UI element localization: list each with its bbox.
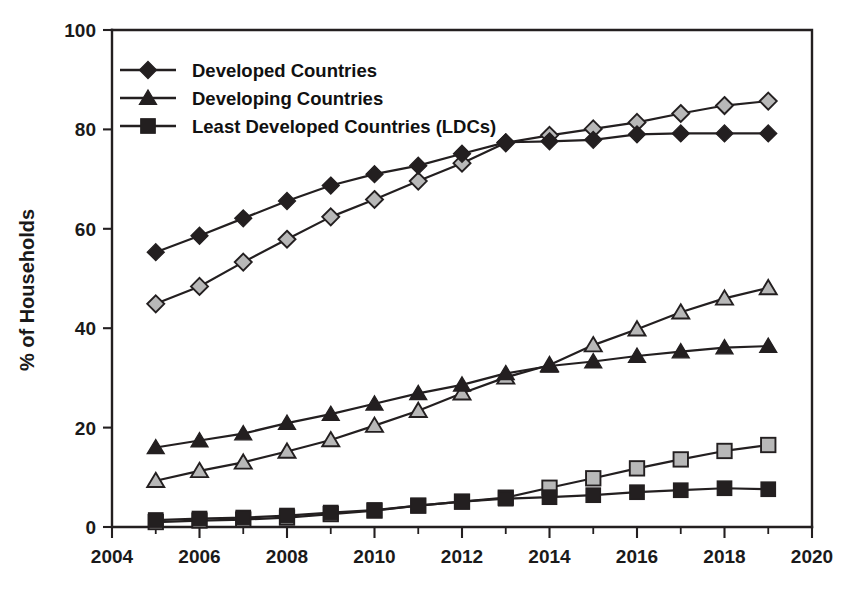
data-point [674,483,688,497]
data-point [717,481,731,495]
data-point [367,503,381,517]
legend-label: Least Developed Countries (LDCs) [192,116,496,137]
data-point [586,471,600,485]
data-point [499,491,513,505]
legend-marker-square [141,119,155,133]
x-tick-label: 2020 [791,546,833,567]
data-point [630,461,644,475]
x-tick-label: 2006 [178,546,220,567]
x-tick-label: 2016 [616,546,658,567]
data-point [455,494,469,508]
data-point [761,438,775,452]
data-point [149,513,163,527]
data-point [630,485,644,499]
y-tick-label: 80 [75,119,96,140]
data-point [542,490,556,504]
data-point [324,505,338,519]
line-chart: 020406080100 200420062008201020122014201… [0,0,858,602]
data-point [236,510,250,524]
data-point [280,508,294,522]
x-tick-label: 2014 [528,546,571,567]
data-point [674,452,688,466]
x-tick-label: 2012 [441,546,483,567]
x-tick-label: 2018 [703,546,745,567]
legend-label: Developed Countries [192,60,377,81]
data-point [717,444,731,458]
data-point [761,482,775,496]
y-tick-label: 0 [85,517,96,538]
data-point [192,511,206,525]
x-tick-label: 2010 [353,546,395,567]
y-tick-label: 100 [64,20,96,41]
y-tick-label: 40 [75,318,96,339]
x-tick-label: 2004 [91,546,134,567]
y-tick-label: 20 [75,418,96,439]
data-point [586,488,600,502]
data-point [411,498,425,512]
legend-label: Developing Countries [192,88,383,109]
x-axis-tick-labels: 200420062008201020122014201620182020 [91,546,833,567]
y-tick-label: 60 [75,219,96,240]
x-tick-label: 2008 [266,546,308,567]
y-axis-title: % of Households [16,209,38,371]
chart-container: 020406080100 200420062008201020122014201… [0,0,858,602]
